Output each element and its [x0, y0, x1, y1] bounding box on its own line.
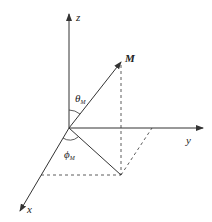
phi-arc: [63, 137, 78, 140]
phi-label: ϕM: [64, 148, 76, 161]
theta-arc: [69, 110, 80, 114]
y-axis-label: y: [185, 134, 191, 146]
z-axis-label: z: [75, 11, 81, 23]
x-axis: [20, 128, 69, 211]
x-axis-label: x: [26, 203, 32, 215]
dashed-to-y: [121, 128, 152, 175]
theta-label: θM: [75, 92, 86, 105]
projection-line: [69, 128, 121, 175]
vector-m-label: M: [124, 52, 136, 64]
coordinate-diagram: z y x M θM ϕM: [0, 0, 212, 222]
